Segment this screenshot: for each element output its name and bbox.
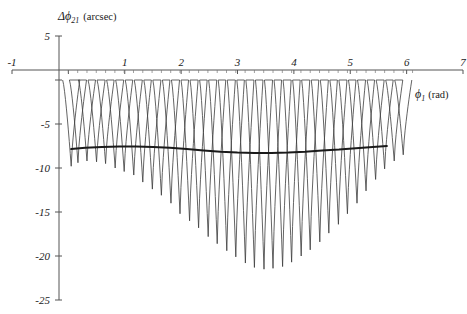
y-axis-tick-labels: 5-5-10-15-20-25 xyxy=(35,30,50,306)
x-tick-label: 1 xyxy=(122,56,128,68)
x-tick-label: -1 xyxy=(7,56,16,68)
x-tick-label: 2 xyxy=(178,56,184,68)
y-tick-label: -25 xyxy=(35,294,50,306)
y-axis-unit: (arcsec) xyxy=(83,11,117,23)
x-tick-label: 5 xyxy=(348,56,354,68)
x-tick-label: 3 xyxy=(234,56,241,68)
x-axis-unit: (rad) xyxy=(428,89,449,101)
mean-envelope-curve xyxy=(71,146,387,153)
x-tick-label: 6 xyxy=(404,56,410,68)
y-axis-label: Δϕ21(arcsec) xyxy=(57,9,117,25)
y-tick-label: 5 xyxy=(45,30,51,42)
svg-text:ϕ1(rad): ϕ1(rad) xyxy=(415,87,449,103)
x-axis-tick-labels: -11234567 xyxy=(7,56,466,68)
plot-figure: -11234567 5-5-10-15-20-25 Δϕ21(arcsec) ϕ… xyxy=(0,0,467,314)
svg-text:Δϕ21(arcsec): Δϕ21(arcsec) xyxy=(57,9,117,25)
oscillatory-residual-curve xyxy=(63,80,412,269)
x-axis-subscript: 1 xyxy=(421,94,425,103)
y-tick-label: -15 xyxy=(35,206,50,218)
x-axis-ticks xyxy=(12,70,463,74)
y-tick-label: -20 xyxy=(35,250,50,262)
x-tick-label: 4 xyxy=(291,56,297,68)
y-tick-label: -10 xyxy=(35,162,50,174)
y-axis-subscript: 21 xyxy=(71,16,79,25)
plot-axes xyxy=(12,36,463,300)
x-axis-label: ϕ1(rad) xyxy=(415,87,449,103)
x-tick-label: 7 xyxy=(460,56,466,68)
y-axis-symbol: Δϕ xyxy=(57,9,71,23)
y-tick-label: -5 xyxy=(41,118,51,130)
